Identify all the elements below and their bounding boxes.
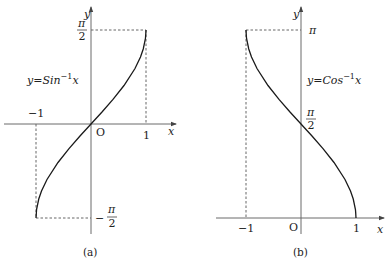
function-label-var: x — [72, 74, 79, 87]
inverse-trig-figure: y x O 1 −1 π 2 − π 2 y=Sin−1x (a) — [0, 0, 386, 268]
fraction-numerator: π — [306, 106, 315, 119]
tick-label-1: 1 — [143, 129, 150, 142]
tick-label-neg1: −1 — [238, 222, 254, 235]
fraction-numerator: π — [77, 17, 86, 30]
origin-label: O — [289, 221, 298, 234]
function-label-arccos: y=Cos−1x — [306, 72, 362, 87]
panel-a: y x O 1 −1 π 2 − π 2 y=Sin−1x (a) — [4, 7, 176, 258]
tick-label-pi-over-2: π 2 — [306, 106, 316, 132]
fraction-numerator: π — [107, 203, 116, 216]
function-label-prefix: y=Cos — [306, 74, 343, 87]
function-label-var: x — [355, 74, 362, 87]
fraction-denominator: 2 — [109, 217, 116, 230]
minus-sign: − — [95, 212, 104, 225]
caption-b: (b) — [293, 246, 308, 258]
origin-label: O — [96, 126, 105, 139]
x-axis-label: x — [377, 223, 384, 236]
tick-label-1: 1 — [353, 222, 360, 235]
function-label-prefix: y=Sin — [26, 74, 61, 87]
caption-a: (a) — [83, 246, 97, 258]
x-axis-label: x — [168, 125, 175, 138]
fraction-denominator: 2 — [308, 119, 315, 132]
function-label-sup: −1 — [343, 72, 355, 81]
tick-label-neg-pi-over-2: − π 2 — [95, 203, 117, 230]
panel-b: y x O −1 1 π π 2 y=Cos−1x (b) — [216, 7, 384, 258]
function-label-sup: −1 — [61, 72, 73, 81]
y-axis-label: y — [292, 8, 300, 21]
fraction-denominator: 2 — [79, 30, 86, 43]
tick-label-neg1: −1 — [28, 107, 44, 120]
tick-label-pi: π — [308, 24, 317, 37]
function-label-arcsin: y=Sin−1x — [26, 72, 79, 87]
